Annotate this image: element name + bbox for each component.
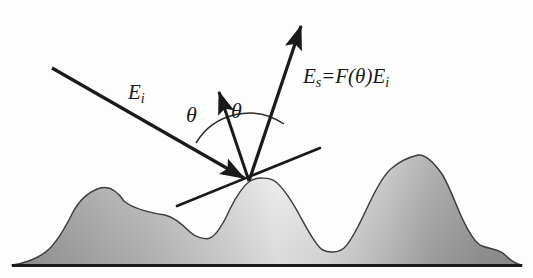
scattered-field-base: E xyxy=(303,64,316,88)
scattering-diagram: Ei Es=F(θ)Ei θ θ xyxy=(0,0,533,278)
angle-of-incidence-label: θ xyxy=(186,104,197,126)
scattering-function-symbol: F xyxy=(335,64,348,88)
equals-sign: = xyxy=(321,64,335,88)
incident-field-base: E xyxy=(128,80,141,104)
scattered-field-equation: Es=F(θ)Ei xyxy=(303,66,389,89)
theta-symbol-in-equation: θ xyxy=(355,64,365,88)
equation-incident-subscript: i xyxy=(385,74,389,90)
rough-surface-shading xyxy=(12,155,522,265)
equation-incident-base: E xyxy=(372,64,385,88)
incident-field-label: Ei xyxy=(128,82,145,105)
angle-of-scattering-label: θ xyxy=(231,100,242,122)
diagram-canvas xyxy=(0,0,533,278)
open-paren: ( xyxy=(348,64,355,88)
incident-field-subscript: i xyxy=(141,90,145,106)
